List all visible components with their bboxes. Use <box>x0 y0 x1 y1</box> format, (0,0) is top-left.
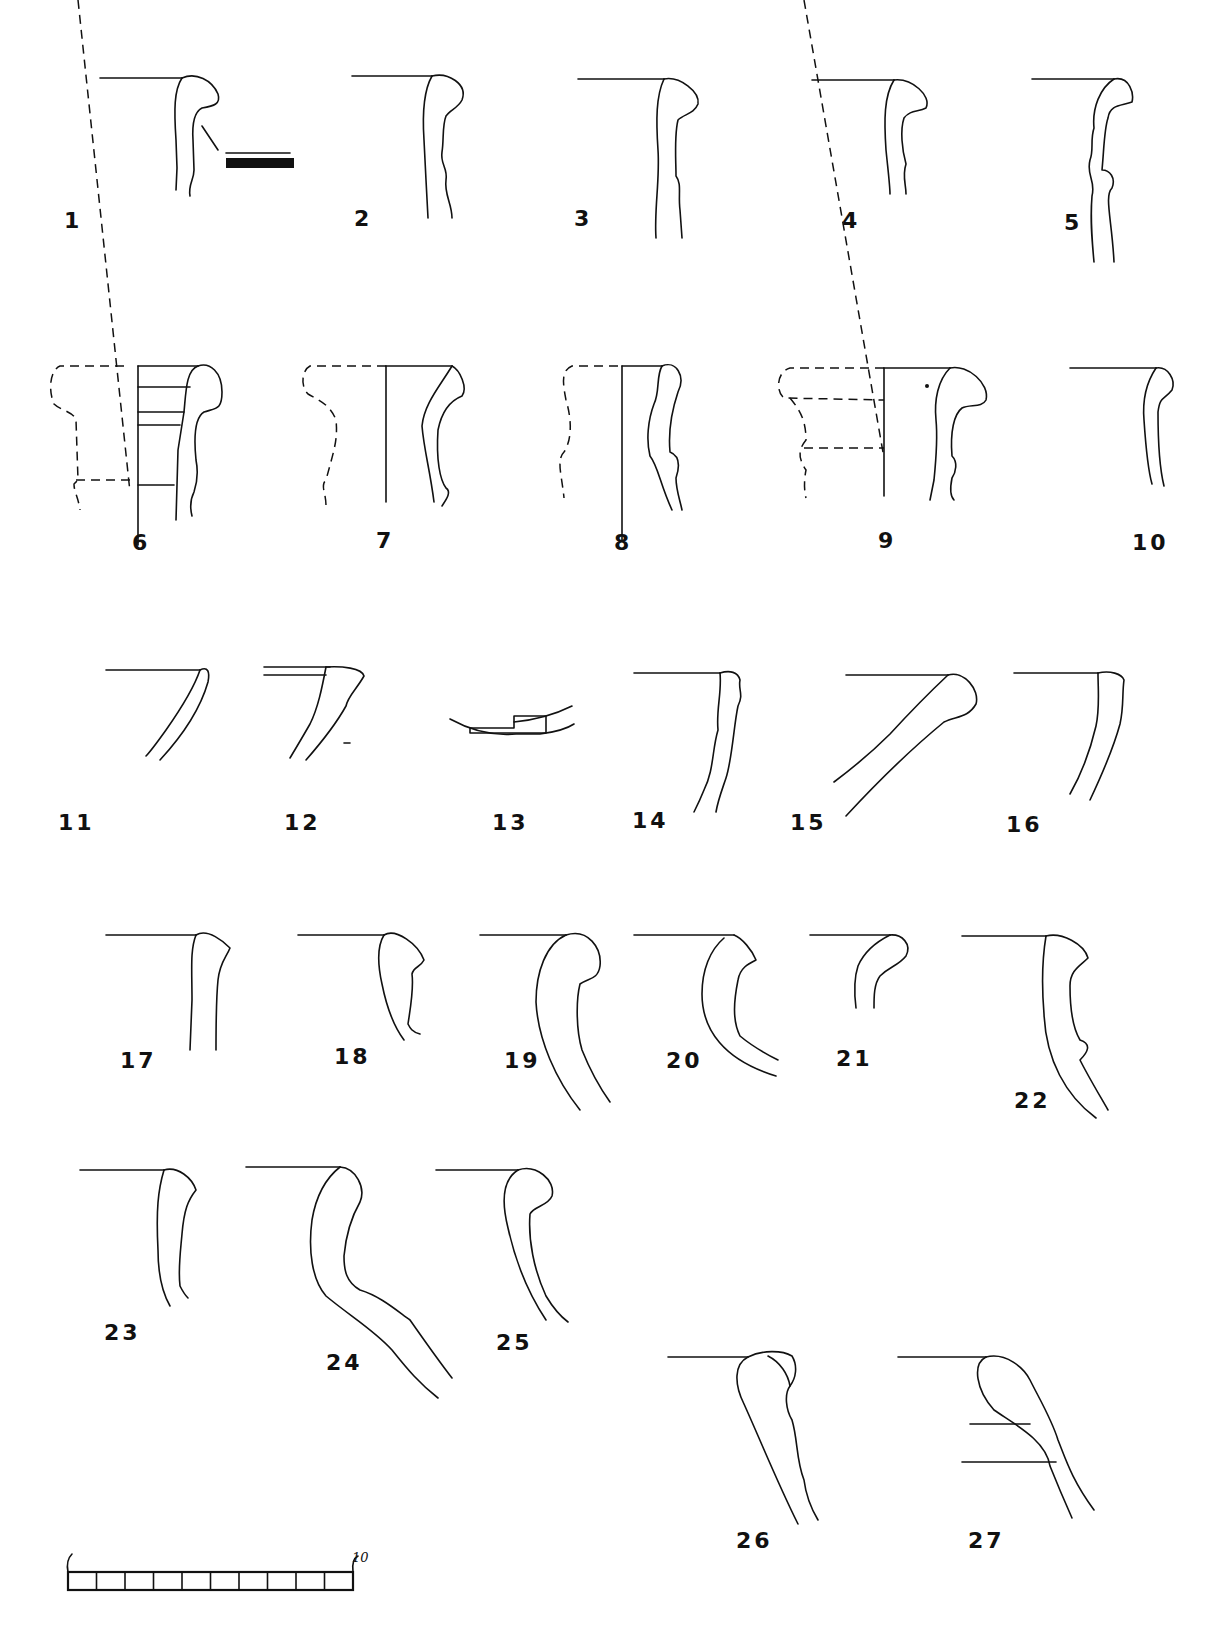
scale-bar-end-label: 10 <box>352 1550 369 1565</box>
figure-21-profile <box>810 935 908 1008</box>
figure-15-profile <box>834 674 977 816</box>
figure-20-profile <box>634 935 778 1076</box>
figure-label-14: 14 <box>632 808 669 833</box>
figure-label-5: 5 <box>1064 210 1082 235</box>
figure-2-profile <box>352 75 463 218</box>
figure-label-21: 21 <box>836 1046 873 1071</box>
figure-27-profile <box>898 1356 1094 1518</box>
figure-7-profile <box>303 366 464 506</box>
figure-label-24: 24 <box>326 1350 363 1375</box>
figure-label-7: 7 <box>376 528 394 553</box>
figure-17-profile <box>106 933 230 1050</box>
figure-25-profile <box>436 1169 568 1322</box>
figure-label-17: 17 <box>120 1048 157 1073</box>
figure-label-2: 2 <box>354 206 372 231</box>
figure-23-profile <box>80 1169 196 1306</box>
figure-label-27: 27 <box>968 1528 1005 1553</box>
figure-18-profile <box>298 933 424 1040</box>
figure-label-3: 3 <box>574 206 592 231</box>
figure-16-profile <box>1014 672 1124 800</box>
figure-12-profile <box>264 667 364 760</box>
figure-label-22: 22 <box>1014 1088 1051 1113</box>
figure-14-profile <box>634 672 741 812</box>
figure-label-13: 13 <box>492 810 529 835</box>
figure-label-26: 26 <box>736 1528 773 1553</box>
figure-label-10: 10 <box>1132 530 1169 555</box>
figure-10-profile <box>1070 368 1173 486</box>
figure-8-profile <box>560 365 682 540</box>
figure-label-11: 11 <box>58 810 95 835</box>
figure-label-1: 1 <box>64 208 82 233</box>
figure-4-profile <box>812 80 927 194</box>
figure-label-19: 19 <box>504 1048 541 1073</box>
figure-label-4: 4 <box>842 208 860 233</box>
figure-9-profile <box>779 0 987 500</box>
figure-label-15: 15 <box>790 810 827 835</box>
figure-3-profile <box>578 79 698 238</box>
figure-13-profile <box>450 706 574 734</box>
figure-6-profile <box>51 0 222 545</box>
figure-label-8: 8 <box>614 530 632 555</box>
figure-label-18: 18 <box>334 1044 371 1069</box>
scale-bar <box>67 1554 358 1590</box>
figure-label-12: 12 <box>284 810 321 835</box>
figure-label-20: 20 <box>666 1048 703 1073</box>
figure-11-profile <box>106 669 209 760</box>
figure-label-16: 16 <box>1006 812 1043 837</box>
figure-19-profile <box>480 934 610 1110</box>
figure-label-23: 23 <box>104 1320 141 1345</box>
figure-label-25: 25 <box>496 1330 533 1355</box>
figure-label-6: 6 <box>132 530 150 555</box>
figure-1-profile <box>100 76 294 196</box>
figure-label-9: 9 <box>878 528 896 553</box>
figure-26-profile <box>668 1352 818 1524</box>
